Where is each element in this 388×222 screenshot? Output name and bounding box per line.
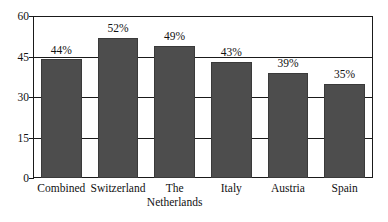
bar-combined [41, 59, 82, 178]
x-label-austria-line1: Austria [271, 182, 305, 194]
y-tick-45: 45 [0, 52, 29, 64]
bar-value-combined: 44% [33, 45, 90, 57]
bar-value-the-netherlands: 49% [146, 31, 203, 43]
x-label-the-netherlands-line2: Netherlands [146, 195, 203, 209]
bar-value-italy: 43% [203, 47, 260, 59]
bar-switzerland [98, 38, 139, 178]
y-tick-mark-0 [29, 178, 34, 179]
bar-slot-austria: 39% [260, 16, 317, 178]
bar-slot-italy: 43% [203, 16, 260, 178]
bar-austria [268, 73, 309, 178]
bar-the-netherlands [154, 46, 195, 178]
y-tick-label-15: 15 [18, 132, 30, 144]
y-tick-label-30: 30 [18, 91, 30, 103]
bar-slot-the-netherlands: 49% [146, 16, 203, 178]
bars-layer: 44% 52% 49% 43% 39% 35% [33, 16, 373, 178]
y-tick-60: 60 [0, 11, 29, 23]
x-label-combined: Combined [33, 181, 90, 195]
bar-slot-switzerland: 52% [90, 16, 147, 178]
x-label-the-netherlands-line1: The [166, 182, 184, 194]
y-tick-label-60: 60 [18, 10, 30, 22]
y-tick-15: 15 [0, 133, 29, 145]
bar-value-austria: 39% [260, 58, 317, 70]
y-tick-30: 30 [0, 92, 29, 104]
bar-value-switzerland: 52% [90, 23, 147, 35]
x-label-italy: Italy [203, 181, 260, 195]
x-label-switzerland-line1: Switzerland [91, 182, 146, 194]
x-label-combined-line1: Combined [37, 182, 85, 194]
x-label-spain-line1: Spain [332, 182, 358, 194]
x-axis-labels: Combined Switzerland The Netherlands Ita… [33, 181, 373, 221]
y-tick-label-45: 45 [18, 51, 30, 63]
bar-italy [211, 62, 252, 178]
bar-value-spain: 35% [316, 69, 373, 81]
bar-chart: 60 45 30 15 0 44% 52% 49% 43% [0, 0, 388, 222]
x-label-spain: Spain [316, 181, 373, 195]
y-tick-0: 0 [0, 173, 29, 185]
x-label-italy-line1: Italy [221, 182, 242, 194]
x-label-switzerland: Switzerland [90, 181, 147, 195]
bar-spain [324, 84, 365, 179]
bar-slot-spain: 35% [316, 16, 373, 178]
x-label-the-netherlands: The Netherlands [146, 181, 203, 210]
x-label-austria: Austria [260, 181, 317, 195]
bar-slot-combined: 44% [33, 16, 90, 178]
